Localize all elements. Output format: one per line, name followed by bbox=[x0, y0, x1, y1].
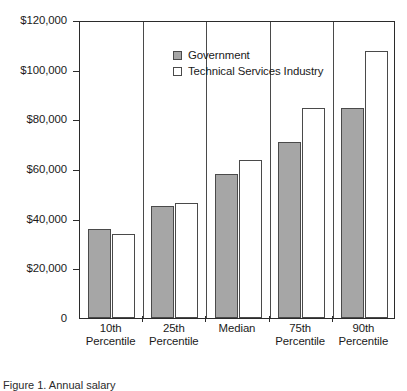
bar-government bbox=[278, 142, 301, 318]
y-tick-label: 0 bbox=[61, 313, 67, 324]
y-tick-label: $120,000 bbox=[20, 15, 67, 26]
y-tick-label: $80,000 bbox=[27, 114, 67, 125]
x-tick-label-line: Percentile bbox=[269, 335, 332, 348]
y-tick-label: $100,000 bbox=[20, 65, 67, 76]
x-axis: 10thPercentile25thPercentileMedian75thPe… bbox=[79, 322, 395, 364]
chart-legend: Government Technical Services Industry bbox=[173, 48, 323, 80]
x-tick-label-line: 25th bbox=[142, 322, 205, 335]
x-tick-label: 25thPercentile bbox=[142, 322, 205, 349]
x-tick-label: 90thPercentile bbox=[332, 322, 395, 349]
bar-technical-services-industry bbox=[175, 203, 198, 318]
white-outlined-square-icon bbox=[173, 67, 182, 76]
figure-caption: Figure 1. Annual salary bbox=[3, 379, 403, 391]
x-tick-label: 75thPercentile bbox=[269, 322, 332, 349]
x-tick-label-line: 10th bbox=[79, 322, 142, 335]
bar-government bbox=[151, 206, 174, 318]
x-tick-label-line: Percentile bbox=[79, 335, 142, 348]
x-tick-label: 10thPercentile bbox=[79, 322, 142, 349]
legend-label-technical-services-industry: Technical Services Industry bbox=[188, 66, 323, 77]
legend-label-government: Government bbox=[188, 50, 250, 61]
bar-technical-services-industry bbox=[302, 108, 325, 318]
plot-area: Government Technical Services Industry bbox=[79, 21, 395, 319]
bar-technical-services-industry bbox=[239, 160, 262, 318]
x-tick-label-line: Percentile bbox=[332, 335, 395, 348]
x-tick-label-line: Percentile bbox=[142, 335, 205, 348]
x-tick-label-line: 75th bbox=[269, 322, 332, 335]
legend-item-government: Government bbox=[173, 48, 323, 63]
x-tick-label-line: 90th bbox=[332, 322, 395, 335]
bar-government bbox=[88, 229, 111, 318]
legend-item-technical-services-industry: Technical Services Industry bbox=[173, 64, 323, 79]
y-axis: $120,000$100,000$80,000$60,000$40,000$20… bbox=[0, 0, 76, 389]
y-tick-label: $60,000 bbox=[27, 164, 67, 175]
bar-government bbox=[215, 174, 238, 318]
x-tick-label-line: Median bbox=[205, 322, 268, 335]
gray-filled-square-icon bbox=[173, 51, 182, 60]
category-separator bbox=[333, 22, 334, 318]
y-tick-label: $40,000 bbox=[27, 214, 67, 225]
bar-technical-services-industry bbox=[112, 234, 135, 318]
x-tick-label: Median bbox=[205, 322, 268, 335]
bar-technical-services-industry bbox=[365, 51, 388, 318]
category-separator bbox=[143, 22, 144, 318]
bar-government bbox=[341, 108, 364, 318]
y-tick-label: $20,000 bbox=[27, 263, 67, 274]
